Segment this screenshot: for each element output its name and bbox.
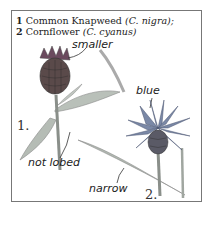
annotation-smaller: smaller [72, 38, 113, 51]
cornflower-stem-2 [182, 148, 183, 198]
figure-number-2: 2. [145, 187, 157, 202]
annotation-not-lobed: not lobed [28, 156, 80, 169]
annotation-blue: blue [136, 84, 160, 97]
annotation-narrow: narrow [89, 182, 127, 195]
knapweed-flower-head [40, 46, 70, 94]
knapweed-leaves [20, 50, 124, 160]
figure-number-1: 1. [17, 118, 29, 133]
not-lobed-pointer [60, 132, 70, 158]
cornflower-flower-head [126, 100, 190, 154]
cornflower-stem [158, 150, 160, 196]
narrow-pointer [117, 168, 124, 183]
